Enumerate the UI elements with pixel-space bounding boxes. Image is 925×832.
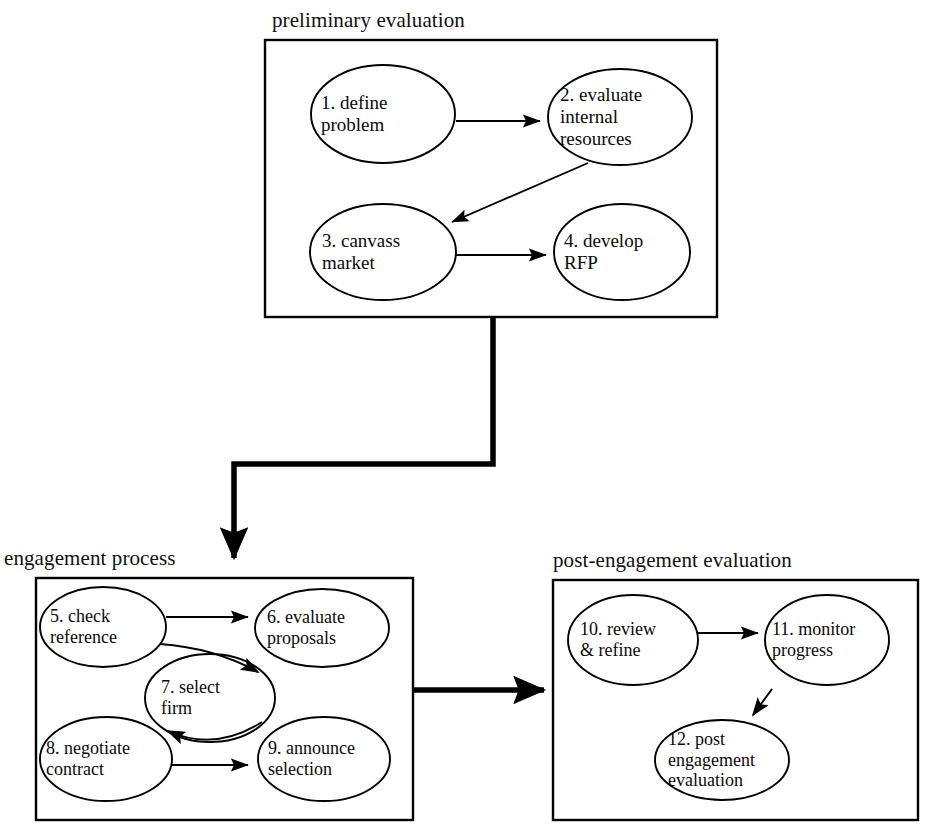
node-ellipse-1-define-problem xyxy=(311,65,455,163)
group-title-post-engagement-evaluation: post-engagement evaluation xyxy=(553,550,792,571)
node-ellipse-11-monitor-progress xyxy=(765,595,889,685)
group-title-preliminary-evaluation: preliminary evaluation xyxy=(272,10,465,31)
node-ellipse-5-check-reference xyxy=(40,587,166,667)
node-ellipse-4-develop-rfp xyxy=(554,204,690,300)
node-ellipse-6-evaluate-proposals xyxy=(255,589,389,667)
diagram-graphics xyxy=(0,0,925,832)
node-ellipse-3-canvass-market xyxy=(310,204,456,300)
node-ellipse-2-evaluate-internal-resources xyxy=(548,69,692,165)
edge-2-to-3 xyxy=(452,163,588,222)
diagram-canvas: preliminary evaluation engagement proces… xyxy=(0,0,925,832)
node-ellipse-12-post-engagement-evaluation xyxy=(655,720,789,800)
node-ellipse-8-negotiate-contract xyxy=(40,717,172,801)
node-ellipse-9-announce-selection xyxy=(258,717,390,801)
connector-preliminary-to-engagement xyxy=(234,318,493,558)
group-title-engagement-process: engagement process xyxy=(4,548,175,569)
node-ellipse-10-review-refine xyxy=(568,595,698,685)
edge-11-to-12 xyxy=(753,689,772,715)
node-ellipse-7-select-firm xyxy=(145,654,275,742)
